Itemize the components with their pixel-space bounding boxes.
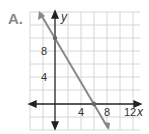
point-y-intercept: [53, 36, 57, 40]
y-axis: [52, 11, 58, 129]
coordinate-plane: 8 4 4 8 12 x y: [0, 0, 149, 134]
x-axis-label: x: [136, 105, 144, 119]
y-axis-label: y: [60, 10, 68, 24]
plotted-line: [38, 11, 110, 130]
y-tick-label: 4: [41, 71, 47, 83]
x-tick-label: 8: [104, 106, 110, 118]
x-tick-label: 4: [78, 106, 84, 118]
point-x-intercept: [92, 102, 96, 106]
y-tick-label: 8: [41, 45, 47, 57]
x-tick-label: 12: [124, 106, 136, 118]
